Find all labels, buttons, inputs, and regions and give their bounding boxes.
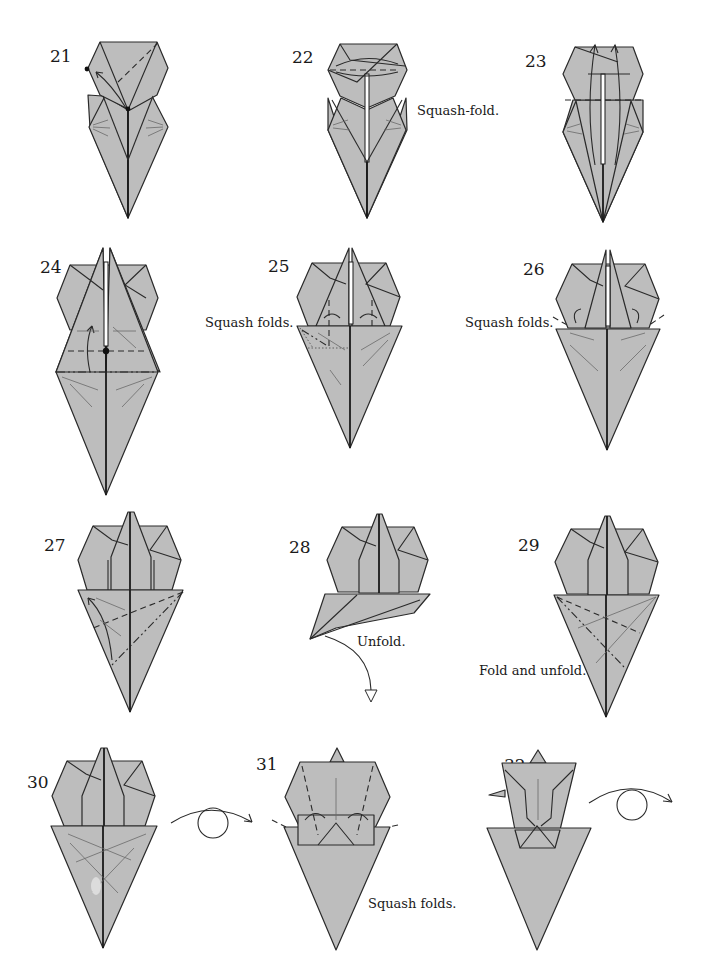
step-number: 28 bbox=[289, 537, 311, 557]
glare bbox=[91, 877, 101, 895]
reference-dot bbox=[85, 67, 90, 72]
step-number: 21 bbox=[50, 46, 72, 66]
step-instruction: Squash-fold. bbox=[417, 103, 499, 118]
step-28: 28 Unfold. bbox=[289, 514, 430, 702]
step-number: 29 bbox=[518, 535, 540, 555]
side-point bbox=[489, 790, 505, 797]
top-point bbox=[530, 750, 546, 763]
step-22: 22 Squash-fold. bbox=[292, 44, 499, 218]
top-point bbox=[330, 748, 344, 762]
step-number: 26 bbox=[523, 259, 545, 279]
step-instruction: Squash folds. bbox=[465, 315, 553, 330]
step-instruction: Squash folds. bbox=[368, 896, 456, 911]
step-number: 23 bbox=[525, 51, 547, 71]
step-23: 23 bbox=[525, 45, 643, 222]
step-instruction: Unfold. bbox=[357, 634, 406, 649]
step-29: 29 Fold and unfold. bbox=[479, 516, 659, 717]
reference-dot bbox=[103, 348, 109, 354]
lower-triangle bbox=[51, 826, 157, 948]
step-30: 30 bbox=[27, 748, 252, 948]
center-slit bbox=[606, 266, 610, 326]
step-26: 26 Squash folds. bbox=[465, 250, 664, 450]
step-27: 27 bbox=[44, 512, 183, 712]
center-flap bbox=[82, 748, 124, 826]
lower-right-flap bbox=[128, 96, 168, 218]
step-21: 21 bbox=[50, 42, 168, 218]
step-32: 32 bbox=[487, 750, 672, 950]
center-flap bbox=[588, 516, 628, 595]
step-number: 30 bbox=[27, 772, 49, 792]
step-24: 24 bbox=[40, 248, 160, 495]
step-25: 25 Squash folds. bbox=[205, 248, 402, 448]
reference-dot bbox=[126, 107, 131, 112]
step-number: 27 bbox=[44, 535, 66, 555]
center-slit bbox=[349, 262, 353, 324]
step-number: 24 bbox=[40, 257, 62, 277]
turn-over-arrow bbox=[589, 789, 672, 803]
center-flap bbox=[111, 512, 151, 590]
center-slit bbox=[365, 74, 369, 162]
step-31: 31 Squash folds. bbox=[256, 748, 456, 950]
origami-diagram-page: 21 22 Squash-fold. 23 bbox=[0, 0, 707, 972]
center-slit bbox=[601, 74, 605, 164]
turn-over-icon bbox=[198, 808, 228, 838]
step-number: 31 bbox=[256, 754, 278, 774]
upper-body bbox=[502, 763, 576, 830]
turn-over-arrow bbox=[171, 810, 252, 823]
step-instruction: Fold and unfold. bbox=[479, 663, 586, 678]
step-number: 22 bbox=[292, 47, 314, 67]
step-instruction: Squash folds. bbox=[205, 315, 293, 330]
step-number: 25 bbox=[268, 256, 290, 276]
center-slit bbox=[104, 262, 108, 346]
turn-over-icon bbox=[617, 790, 647, 820]
unfold-arrowhead bbox=[365, 690, 377, 702]
